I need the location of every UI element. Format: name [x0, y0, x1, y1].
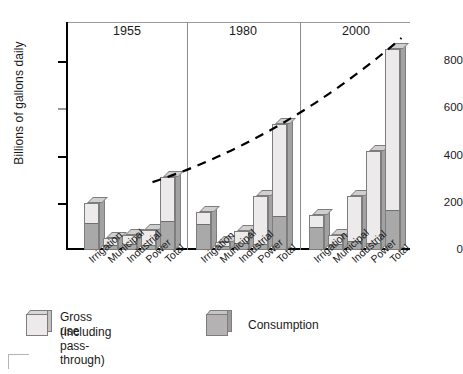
- chart-legend: Gross use (including pass-through) Consu…: [26, 306, 446, 352]
- bar-front-face: [84, 203, 99, 250]
- bar-2000-total: [385, 43, 400, 250]
- bar-2000-irrigation: [309, 209, 324, 250]
- bar-front-face: [196, 212, 211, 250]
- water-use-bar-chart: Billions of gallons daily 800 600 400 20…: [0, 0, 463, 374]
- page-corner-mark: [8, 354, 29, 369]
- y-tick-label-800: 800: [411, 55, 463, 67]
- y-tick-label-600: 600: [411, 102, 463, 114]
- bar-front-face: [385, 49, 400, 250]
- bar-1980-total: [272, 118, 287, 250]
- bar-1955-irrigation: [84, 197, 99, 250]
- legend-label-gross-use-line2: (including pass-through): [60, 325, 111, 367]
- legend-swatch-gross-use: [26, 310, 52, 336]
- y-axis-label: Billions of gallons daily: [12, 23, 26, 183]
- bar-front-face: [272, 124, 287, 250]
- bar-side-face: [287, 118, 293, 250]
- bar-side-face: [175, 171, 181, 250]
- legend-label-consumption: Consumption: [248, 318, 319, 332]
- y-tick-label-0: 0: [411, 244, 463, 256]
- bar-side-face: [400, 43, 406, 250]
- bar-1980-irrigation: [196, 206, 211, 250]
- bars-layer: [66, 22, 410, 250]
- legend-swatch-consumption: [206, 310, 232, 336]
- y-tick-label-200: 200: [411, 197, 463, 209]
- y-tick-label-400: 400: [411, 150, 463, 162]
